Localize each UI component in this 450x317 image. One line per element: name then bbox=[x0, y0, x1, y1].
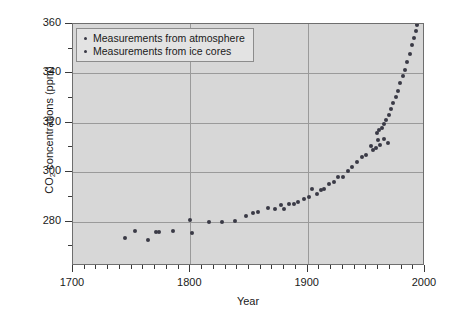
x-axis-tick-label: 1800 bbox=[159, 276, 219, 288]
data-point bbox=[123, 236, 127, 240]
x-axis-minor-tick bbox=[354, 265, 355, 269]
data-point bbox=[220, 220, 224, 224]
x-axis-minor-tick bbox=[318, 265, 319, 269]
data-point bbox=[384, 118, 388, 122]
y-axis-minor-tick bbox=[68, 245, 72, 246]
data-point bbox=[256, 210, 260, 214]
legend-entry-ice-cores: Measurements from ice cores bbox=[82, 45, 245, 58]
data-point bbox=[292, 202, 296, 206]
x-axis-major-tick bbox=[189, 265, 190, 272]
data-point bbox=[403, 68, 407, 72]
y-axis-minor-tick bbox=[68, 146, 72, 147]
x-axis-minor-tick bbox=[401, 265, 402, 269]
x-axis-minor-tick bbox=[84, 265, 85, 269]
x-axis-minor-tick bbox=[389, 265, 390, 269]
y-axis-minor-tick bbox=[68, 97, 72, 98]
gridline-vertical bbox=[308, 24, 309, 264]
gridline-horizontal bbox=[73, 123, 423, 124]
data-point bbox=[266, 206, 270, 210]
x-axis-major-tick bbox=[72, 265, 73, 272]
x-axis-minor-tick bbox=[225, 265, 226, 269]
data-point bbox=[412, 36, 416, 40]
data-point bbox=[386, 141, 390, 145]
x-axis-major-tick bbox=[307, 265, 308, 272]
x-axis-title: Year bbox=[72, 295, 424, 307]
x-axis-minor-tick bbox=[271, 265, 272, 269]
data-point bbox=[244, 214, 248, 218]
data-point bbox=[322, 187, 326, 191]
x-axis-minor-tick bbox=[283, 265, 284, 269]
x-axis-tick-label: 1700 bbox=[42, 276, 102, 288]
data-point bbox=[296, 200, 300, 204]
data-point bbox=[190, 231, 194, 235]
data-point bbox=[360, 155, 364, 159]
x-axis-minor-tick bbox=[377, 265, 378, 269]
data-point bbox=[374, 146, 378, 150]
x-axis-minor-tick bbox=[412, 265, 413, 269]
data-point bbox=[307, 195, 311, 199]
data-point bbox=[410, 43, 414, 47]
x-axis-minor-tick bbox=[295, 265, 296, 269]
data-point bbox=[207, 220, 211, 224]
legend-marker-dot-icon bbox=[84, 50, 87, 53]
data-point bbox=[408, 52, 412, 56]
data-point bbox=[282, 207, 286, 211]
y-axis-title-suffix: concentrations (ppm) bbox=[43, 66, 55, 172]
y-axis-major-tick bbox=[65, 122, 72, 123]
co2-concentration-chart: 280300320340360 1700180019002000 Year CO… bbox=[0, 0, 450, 317]
data-point bbox=[336, 175, 340, 179]
y-axis-title-subscript: 2 bbox=[48, 173, 57, 177]
x-axis-minor-tick bbox=[213, 265, 214, 269]
x-axis-minor-tick bbox=[119, 265, 120, 269]
x-axis-minor-tick bbox=[178, 265, 179, 269]
x-axis-major-tick bbox=[424, 265, 425, 272]
data-point bbox=[378, 143, 382, 147]
legend-marker-dot-icon bbox=[84, 37, 87, 40]
x-axis-minor-tick bbox=[131, 265, 132, 269]
gridline-horizontal bbox=[73, 222, 423, 223]
data-point bbox=[251, 211, 255, 215]
legend-label-atmosphere: Measurements from atmosphere bbox=[93, 32, 245, 45]
data-point bbox=[346, 169, 350, 173]
x-axis-tick-label: 1900 bbox=[277, 276, 337, 288]
data-point bbox=[414, 29, 418, 33]
x-axis-tick-label: 2000 bbox=[394, 276, 450, 288]
x-axis-minor-tick bbox=[142, 265, 143, 269]
gridline-horizontal bbox=[73, 73, 423, 74]
data-point bbox=[146, 238, 150, 242]
x-axis-minor-tick bbox=[154, 265, 155, 269]
x-axis-minor-tick bbox=[260, 265, 261, 269]
data-point bbox=[382, 122, 386, 126]
x-axis-minor-tick bbox=[95, 265, 96, 269]
x-axis-minor-tick bbox=[107, 265, 108, 269]
data-point bbox=[302, 197, 306, 201]
y-axis-major-tick bbox=[65, 23, 72, 24]
data-point bbox=[332, 180, 336, 184]
data-point bbox=[355, 160, 359, 164]
y-axis-major-tick bbox=[65, 72, 72, 73]
data-point bbox=[364, 153, 368, 157]
data-point bbox=[287, 202, 291, 206]
data-point bbox=[394, 95, 398, 99]
legend-entry-atmosphere: Measurements from atmosphere bbox=[82, 32, 245, 45]
data-point bbox=[380, 126, 384, 130]
data-point bbox=[327, 182, 331, 186]
data-point bbox=[157, 230, 161, 234]
y-axis-title: CO2 concentrations (ppm) bbox=[43, 9, 55, 251]
data-point bbox=[171, 229, 175, 233]
data-point bbox=[273, 207, 277, 211]
data-point bbox=[389, 107, 393, 111]
x-axis-minor-tick bbox=[248, 265, 249, 269]
data-point bbox=[133, 229, 137, 233]
data-point bbox=[391, 101, 395, 105]
x-axis-minor-tick bbox=[166, 265, 167, 269]
y-axis-major-tick bbox=[65, 171, 72, 172]
y-axis-major-tick bbox=[65, 221, 72, 222]
data-point bbox=[401, 74, 405, 78]
data-point bbox=[387, 113, 391, 117]
gridline-horizontal bbox=[73, 172, 423, 173]
data-point bbox=[310, 187, 314, 191]
data-point bbox=[398, 81, 402, 85]
legend-label-ice-cores: Measurements from ice cores bbox=[93, 45, 231, 58]
data-point bbox=[396, 89, 400, 93]
